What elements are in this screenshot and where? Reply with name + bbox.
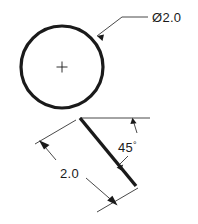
angle-value: 45	[118, 140, 133, 155]
length-label: 2.0	[60, 166, 79, 181]
drawing-svg: Ø2.0 45° 2.0	[0, 0, 198, 224]
diameter-label: Ø2.0	[152, 10, 181, 25]
sheet-background	[0, 0, 198, 224]
angle-degree-symbol: °	[133, 140, 137, 150]
technical-drawing-canvas: Ø2.0 45° 2.0	[0, 0, 198, 224]
